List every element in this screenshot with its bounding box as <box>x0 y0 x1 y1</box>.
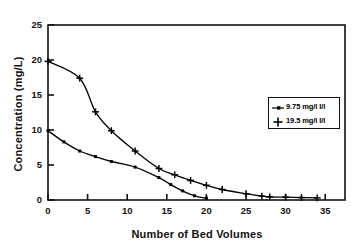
square-dot-marker-icon <box>271 100 286 112</box>
plus-marker-icon <box>271 114 286 126</box>
chart-legend: 9.75 mg/l I/l 19.5 mg/l I/l <box>268 97 340 129</box>
y-tick-label: 10 <box>18 124 42 135</box>
y-tick-label: 20 <box>18 54 42 65</box>
x-tick-label: 30 <box>276 205 296 216</box>
y-tick-label: 5 <box>18 159 42 170</box>
x-tick-label: 0 <box>38 205 58 216</box>
y-axis-title: Concentration (mg/L) <box>12 24 24 204</box>
chart-figure: Concentration (mg/L) Number of Bed Volum… <box>0 0 362 252</box>
legend-label-series-2: 19.5 mg/l I/l <box>286 116 325 125</box>
x-tick-label: 5 <box>78 205 98 216</box>
x-tick-label: 10 <box>117 205 137 216</box>
legend-label-series-1: 9.75 mg/l I/l <box>286 102 325 111</box>
legend-entry-series-1: 9.75 mg/l I/l <box>271 99 325 113</box>
x-tick-label: 20 <box>196 205 216 216</box>
x-axis-title: Number of Bed Volumes <box>48 228 346 240</box>
legend-entry-series-2: 19.5 mg/l I/l <box>271 113 325 127</box>
x-tick-label: 15 <box>157 205 177 216</box>
x-tick-label: 25 <box>236 205 256 216</box>
y-tick-label: 25 <box>18 19 42 30</box>
y-tick-label: 15 <box>18 89 42 100</box>
x-tick-label: 35 <box>315 205 335 216</box>
y-tick-label: 0 <box>18 194 42 205</box>
